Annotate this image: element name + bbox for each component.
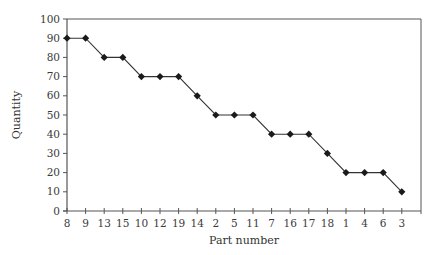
x-tick-label: 11 (246, 217, 259, 229)
x-tick-label: 12 (153, 217, 166, 229)
y-axis-title: Quantity (10, 90, 23, 139)
y-tick-label: 60 (47, 89, 60, 101)
x-tick-label: 4 (361, 217, 368, 229)
x-tick-label: 1 (343, 217, 350, 229)
y-tick-label: 30 (47, 147, 60, 159)
diamond-marker (156, 73, 163, 80)
diamond-marker (231, 111, 238, 118)
diamond-marker (287, 131, 294, 138)
x-tick-label: 19 (172, 217, 185, 229)
x-tick-label: 5 (231, 217, 238, 229)
y-tick-label: 100 (40, 13, 60, 25)
plot-frame (67, 19, 421, 214)
x-axis: 89131510121914251171617181463 (63, 208, 421, 229)
x-tick-label: 16 (284, 217, 298, 229)
x-axis-title: Part number (209, 234, 280, 247)
diamond-marker (63, 35, 70, 42)
x-tick-label: 7 (268, 217, 275, 229)
x-tick-label: 3 (398, 217, 405, 229)
diamond-marker (361, 169, 368, 176)
x-tick-label: 13 (98, 217, 111, 229)
x-tick-label: 10 (135, 217, 148, 229)
y-tick-label: 20 (47, 166, 60, 178)
y-tick-label: 40 (47, 128, 60, 140)
y-tick-label: 70 (47, 70, 60, 82)
x-tick-label: 17 (302, 217, 315, 229)
y-tick-label: 90 (47, 32, 60, 44)
y-tick-label: 50 (47, 109, 60, 121)
y-axis: 0102030405060708090100 (40, 13, 67, 217)
y-tick-label: 80 (47, 51, 60, 63)
x-tick-label: 15 (116, 217, 129, 229)
x-tick-label: 8 (64, 217, 71, 229)
data-series (63, 35, 405, 196)
x-tick-label: 14 (191, 217, 205, 229)
x-tick-label: 18 (321, 217, 334, 229)
x-tick-label: 2 (212, 217, 219, 229)
y-tick-label: 0 (53, 205, 60, 217)
y-tick-label: 10 (47, 185, 60, 197)
x-tick-label: 9 (82, 217, 89, 229)
pareto-line-chart: 0102030405060708090100 89131510121914251… (0, 0, 445, 255)
x-tick-label: 6 (380, 217, 387, 229)
